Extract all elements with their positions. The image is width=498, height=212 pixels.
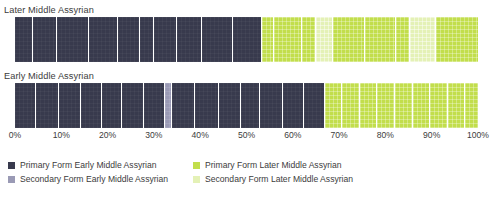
bar-segment[interactable] [202,17,232,62]
bar-segment[interactable] [195,83,219,128]
bar-segment[interactable] [396,17,410,62]
bar-segment[interactable] [365,17,396,62]
bar-segment[interactable] [57,17,89,62]
bar-segment[interactable] [413,83,430,128]
stacked-bar-chart: Later Middle Assyrian Early Middle Assyr… [0,0,498,212]
bar-segment[interactable] [241,83,260,128]
x-axis-tick-label: 30% [145,130,162,140]
bar-segment[interactable] [395,83,413,128]
bar-segment[interactable] [342,83,360,128]
legend-item-primary-form-later[interactable]: Primary Form Later Middle Assyrian [193,159,342,171]
bar-segment[interactable] [465,83,478,128]
legend-item-primary-form-early[interactable]: Primary Form Early Middle Assyrian [8,159,193,171]
x-axis-tick-label: 10% [53,130,70,140]
bar-segment[interactable] [302,17,317,62]
legend-label-primary-early: Primary Form Early Middle Assyrian [20,159,157,171]
bar-label-early-middle-assyrian: Early Middle Assyrian [0,70,498,83]
bar-segment[interactable] [430,83,448,128]
chart-legend: Primary Form Early Middle Assyrian Prima… [8,158,488,186]
x-axis-tick-label: 20% [99,130,116,140]
bar-segment[interactable] [15,83,36,128]
bar-group-later-middle-assyrian: Later Middle Assyrian [0,4,498,17]
bar-segment[interactable] [118,17,139,62]
x-axis-tick-label: 100% [467,130,489,140]
bar-segment[interactable] [140,17,155,62]
bar-segment[interactable] [316,17,332,62]
bar-track-later-middle-assyrian [15,17,478,62]
legend-swatch-icon-primary-early [8,162,15,169]
bar-segment[interactable] [283,83,304,128]
bar-segment[interactable] [233,17,262,62]
x-axis-tick-label: 70% [330,130,347,140]
bar-label-later-middle-assyrian: Later Middle Assyrian [0,4,498,17]
legend-swatch-icon-secondary-later [193,176,200,183]
bar-track-early-middle-assyrian [15,83,478,128]
legend-item-secondary-form-early[interactable]: Secondary Form Early Middle Assyrian [8,173,193,185]
bar-segment[interactable] [377,83,395,128]
bar-segment[interactable] [274,17,302,62]
legend-swatch-icon-secondary-early [8,176,15,183]
bar-segment[interactable] [448,83,465,128]
bar-segment[interactable] [81,83,102,128]
legend-row-primary: Primary Form Early Middle Assyrian Prima… [8,158,488,172]
x-axis-tick-label: 80% [377,130,394,140]
x-axis-tick-label: 60% [284,130,301,140]
bar-segment[interactable] [260,83,282,128]
bar-segment[interactable] [144,83,165,128]
legend-swatch-icon-primary-later [193,162,200,169]
legend-label-secondary-later: Secondary Form Later Middle Assyrian [205,173,353,185]
x-axis-tick-label: 90% [423,130,440,140]
x-axis-tick-label: 0% [9,130,21,140]
bar-group-early-middle-assyrian: Early Middle Assyrian [0,70,498,83]
bar-segment[interactable] [172,83,195,128]
bar-segment[interactable] [102,83,122,128]
bar-segment[interactable] [59,83,81,128]
bar-segment[interactable] [122,83,144,128]
bar-segment[interactable] [154,17,177,62]
x-axis: 0%10%20%30%40%50%60%70%80%90%100% [15,130,478,144]
bar-segment[interactable] [436,17,478,62]
bar-segment[interactable] [219,83,241,128]
bar-segment[interactable] [262,17,274,62]
legend-label-primary-later: Primary Form Later Middle Assyrian [205,159,342,171]
bar-segment[interactable] [89,17,118,62]
x-axis-tick-label: 40% [192,130,209,140]
chart-footnote [0,203,498,212]
bar-segment[interactable] [15,17,33,62]
legend-item-secondary-form-later[interactable]: Secondary Form Later Middle Assyrian [193,173,353,185]
bar-segment[interactable] [304,83,325,128]
bar-segment[interactable] [325,83,342,128]
bar-segment[interactable] [333,17,366,62]
bar-segment[interactable] [177,17,202,62]
legend-label-secondary-early: Secondary Form Early Middle Assyrian [20,173,168,185]
bar-segment[interactable] [410,17,435,62]
bar-segment[interactable] [33,17,57,62]
legend-row-secondary: Secondary Form Early Middle Assyrian Sec… [8,172,488,186]
bar-segment[interactable] [360,83,377,128]
x-axis-tick-label: 50% [238,130,255,140]
bar-segment[interactable] [36,83,58,128]
